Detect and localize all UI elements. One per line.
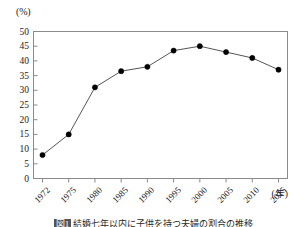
y-tick-label: 20 — [9, 115, 29, 125]
y-tick-label: 45 — [9, 41, 29, 51]
x-axis-unit-label: (年) — [272, 189, 288, 199]
y-tick-label: 0 — [9, 174, 29, 184]
y-tick-label: 25 — [9, 100, 29, 110]
figure-caption: 図1結婚七年以内に子供を持つ夫婦の割合の推移 — [0, 219, 307, 227]
y-tick-label: 15 — [9, 129, 29, 139]
y-tick-label: 5 — [9, 159, 29, 169]
y-tick-label: 10 — [9, 144, 29, 154]
y-tick-label: 35 — [9, 71, 29, 81]
y-tick-label: 30 — [9, 85, 29, 95]
caption-text: 結婚七年以内に子供を持つ夫婦の割合の推移 — [73, 219, 253, 227]
caption-label: 図1 — [54, 219, 72, 227]
figure-container: (%) 50454035302520151050 197219751980198… — [0, 0, 307, 227]
y-tick-label: 40 — [9, 56, 29, 66]
y-tick-label: 50 — [9, 27, 29, 37]
